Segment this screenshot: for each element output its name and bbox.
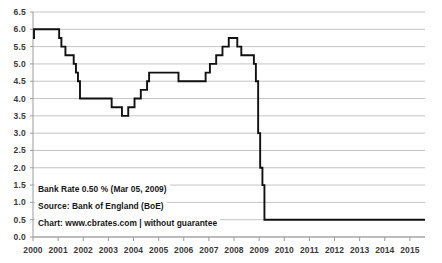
y-axis-tick-label: 5.5 (0, 42, 26, 52)
annotation-chart-credit: Chart: www.cbrates.com | without guarant… (35, 217, 220, 230)
x-tick-marks-group (33, 237, 410, 241)
y-axis-tick-label: 1.0 (0, 197, 26, 207)
y-axis-tick-label: 0.0 (0, 232, 26, 242)
y-axis-tick-label: 1.5 (0, 180, 26, 190)
annotation-bank-rate: Bank Rate 0.50 % (Mar 05, 2009) (35, 183, 170, 196)
annotation-source: Source: Bank of England (BoE) (35, 200, 167, 213)
y-axis-tick-label: 3.0 (0, 128, 26, 138)
y-axis-tick-label: 6.5 (0, 7, 26, 17)
x-axis-tick-label: 2015 (395, 245, 425, 255)
y-axis-tick-label: 3.5 (0, 111, 26, 121)
y-axis-tick-label: 0.5 (0, 215, 26, 225)
bank-rate-chart: 0.00.51.01.52.02.53.03.54.04.55.05.56.06… (0, 0, 442, 263)
y-axis-tick-label: 5.0 (0, 59, 26, 69)
y-axis-tick-label: 4.0 (0, 94, 26, 104)
y-axis-tick-label: 4.5 (0, 76, 26, 86)
y-axis-tick-label: 2.5 (0, 145, 26, 155)
y-axis-tick-label: 2.0 (0, 163, 26, 173)
y-axis-tick-label: 6.0 (0, 24, 26, 34)
